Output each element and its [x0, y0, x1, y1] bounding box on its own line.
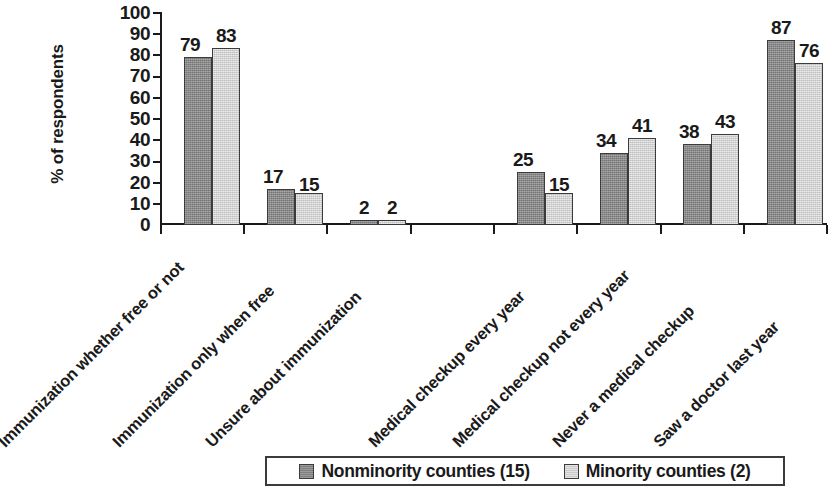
- x-axis-label-unsure-about-immunization: Unsure about immunization: [202, 287, 366, 451]
- x-axis-label-immunization-whether-free-or-not: Immunization whether free or not: [0, 258, 188, 451]
- bar-chart: % of respondents 100 90 80 70 60 50 40 3…: [0, 0, 835, 491]
- legend-item-minority-counties: Minority counties (2): [564, 461, 751, 482]
- legend: Nonminority counties (15) Minority count…: [265, 456, 785, 486]
- x-axis-category-labels: Immunization whether free or not Immuniz…: [0, 0, 835, 460]
- legend-label-nonminority-counties: Nonminority counties (15): [321, 461, 529, 482]
- x-axis-label-medical-checkup-every-year: Medical checkup every year: [365, 287, 529, 451]
- dark-gray-swatch-icon: [299, 464, 314, 479]
- legend-item-nonminority-counties: Nonminority counties (15): [299, 461, 529, 482]
- x-axis-label-medical-checkup-not-every-year: Medical checkup not every year: [449, 266, 634, 451]
- legend-label-minority-counties: Minority counties (2): [586, 461, 751, 482]
- light-gray-swatch-icon: [564, 464, 579, 479]
